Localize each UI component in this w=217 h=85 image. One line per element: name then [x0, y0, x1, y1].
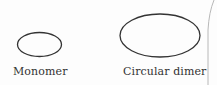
circular-dimer-ellipse: [120, 14, 200, 57]
page-edge-line: [208, 0, 214, 85]
monomer-ellipse: [18, 33, 62, 57]
diagram-figure: Monomer Circular dimer: [0, 0, 217, 85]
monomer-label: Monomer: [13, 66, 68, 78]
circular-dimer-label: Circular dimer: [123, 66, 206, 78]
